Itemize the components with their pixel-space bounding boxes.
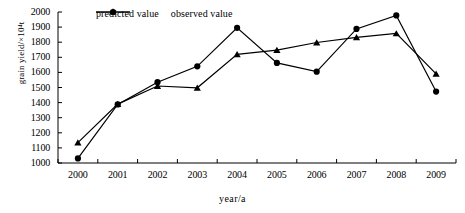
- y-tick-label: 1500: [16, 83, 50, 93]
- y-tick-label: 1400: [16, 98, 50, 108]
- x-tick-label: 2007: [335, 170, 379, 180]
- grain-yield-line-chart: grain yield/×10⁴t year/a predicted value…: [0, 0, 465, 213]
- x-tick-label: 2002: [136, 170, 180, 180]
- y-tick-label: 1700: [16, 52, 50, 62]
- y-tick-label: 1900: [16, 22, 50, 32]
- y-tick-label: 1800: [16, 37, 50, 47]
- y-tick-label: 1300: [16, 113, 50, 123]
- x-tick-label: 2004: [215, 170, 259, 180]
- y-tick-label: 1000: [16, 158, 50, 168]
- x-tick-label: 2006: [295, 170, 339, 180]
- y-tick-label: 1200: [16, 128, 50, 138]
- x-tick-label: 2001: [96, 170, 140, 180]
- x-tick-label: 2000: [56, 170, 100, 180]
- y-tick-label: 2000: [16, 7, 50, 17]
- y-tick-label: 1600: [16, 67, 50, 77]
- plot-area: [0, 0, 465, 213]
- x-tick-label: 2003: [175, 170, 219, 180]
- y-tick-label: 1100: [16, 143, 50, 153]
- x-tick-label: 2005: [255, 170, 299, 180]
- x-tick-label: 2008: [374, 170, 418, 180]
- x-tick-label: 2009: [414, 170, 458, 180]
